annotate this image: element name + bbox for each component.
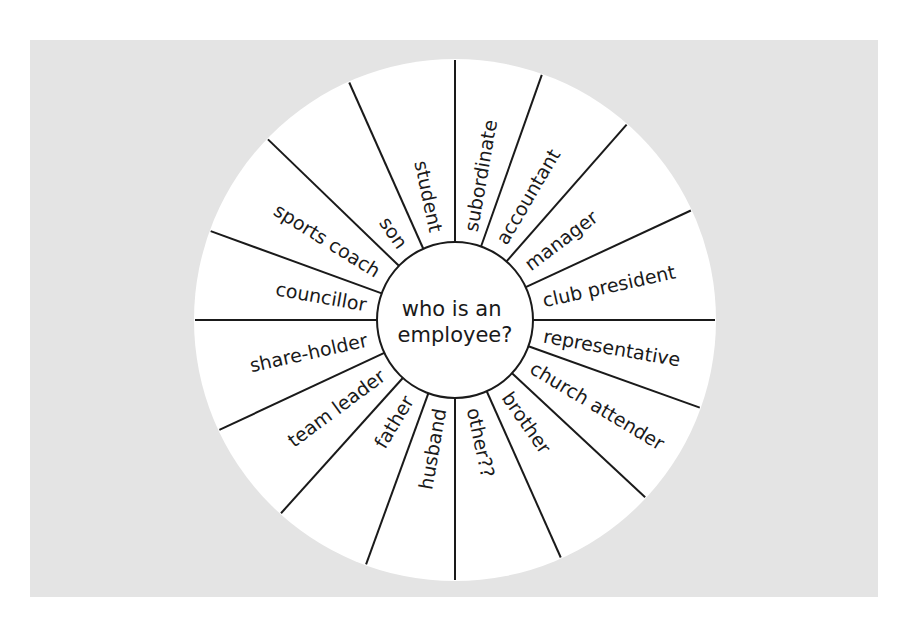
center-question-line-1: who is an <box>402 297 502 321</box>
employee-wheel-diagram: councillorsports coachsonstudentsubordin… <box>0 0 908 622</box>
center-question-line-2: employee? <box>398 323 513 347</box>
